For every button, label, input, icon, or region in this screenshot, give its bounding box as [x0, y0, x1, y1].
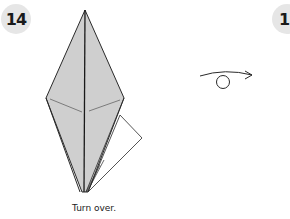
step-caption: Turn over.: [72, 203, 116, 213]
origami-diagram: [0, 0, 290, 219]
turn-over-arrow-icon: [200, 71, 252, 89]
